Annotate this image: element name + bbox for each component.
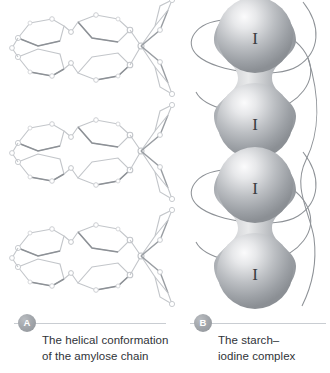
panel-a-caption: A The helical conformation of the amylos… bbox=[14, 313, 174, 373]
panel-b-caption-line2: iodine complex bbox=[218, 349, 330, 365]
iodine-label: I bbox=[252, 115, 258, 134]
amylose-repeat-unit-2 bbox=[10, 102, 175, 201]
dumbbell-complex-bottom: I I bbox=[214, 147, 296, 309]
panel-a-caption-line1: The helical conformation bbox=[42, 333, 192, 349]
dumbbell-complex-top: I I bbox=[214, 0, 296, 159]
amylose-repeat-unit-1 bbox=[10, 0, 175, 97]
panel-a-rule bbox=[14, 323, 166, 324]
figure-root: I I I I A The helical conformation of th… bbox=[0, 0, 330, 373]
caption-area: A The helical conformation of the amylos… bbox=[0, 313, 330, 373]
illustration-area: I I I I bbox=[0, 0, 330, 313]
panel-a-caption-head: A bbox=[14, 313, 174, 333]
panel-b-badge: B bbox=[194, 314, 212, 332]
panel-b-illustration: I I I I bbox=[180, 0, 330, 313]
panel-b-caption-head: B bbox=[190, 313, 330, 333]
amylose-repeat-unit-3 bbox=[10, 207, 175, 306]
panel-a-caption-text: The helical conformation of the amylose … bbox=[42, 333, 192, 364]
panel-b-caption-line1: The starch– bbox=[218, 333, 330, 349]
panel-b-caption: B The starch– iodine complex bbox=[190, 313, 330, 373]
panel-a-caption-line2: of the amylose chain bbox=[42, 349, 192, 365]
iodine-label: I bbox=[252, 265, 258, 284]
panel-b-caption-text: The starch– iodine complex bbox=[218, 333, 330, 364]
iodine-label: I bbox=[252, 179, 258, 198]
panel-a-illustration bbox=[0, 0, 180, 313]
panel-a-badge: A bbox=[18, 314, 36, 332]
iodine-label: I bbox=[252, 29, 258, 48]
